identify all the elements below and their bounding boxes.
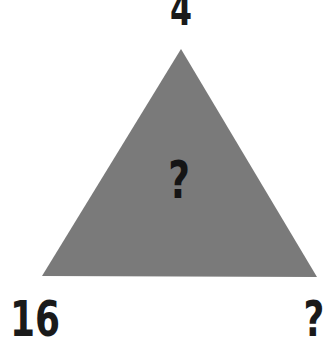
center-unknown: ? <box>164 154 194 206</box>
triangle-puzzle: 4 ? 16 ? <box>0 0 331 354</box>
bottom-left-number: 16 <box>10 294 53 344</box>
bottom-right-unknown: ? <box>300 294 329 344</box>
top-number: 4 <box>166 0 196 32</box>
